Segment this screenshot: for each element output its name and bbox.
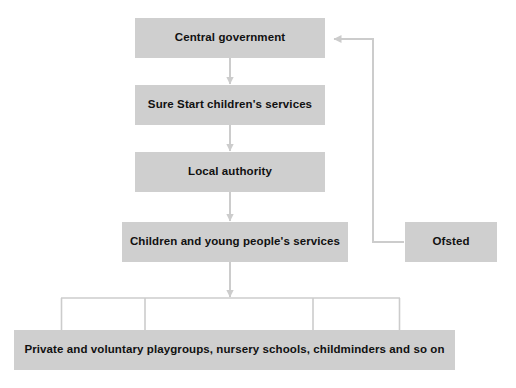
node-central-government[interactable]: Central government [135, 18, 325, 58]
node-ofsted[interactable]: Ofsted [405, 222, 497, 262]
node-sure-start-childrens-services[interactable]: Sure Start children's services [135, 85, 325, 125]
node-local-authority[interactable]: Local authority [135, 152, 325, 192]
node-children-and-young-peoples-services[interactable]: Children and young people's services [122, 222, 348, 262]
edge-ofsted-to-central [334, 39, 404, 242]
flowchart-diagram: Central government Sure Start children's… [0, 0, 516, 388]
node-private-and-voluntary-providers[interactable]: Private and voluntary playgroups, nurser… [14, 330, 455, 370]
